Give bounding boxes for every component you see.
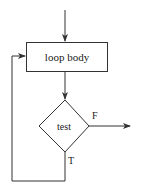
test-label: test xyxy=(57,121,71,132)
loop-body-label: loop body xyxy=(45,51,90,63)
test-node: test xyxy=(39,100,89,152)
flowchart: loop body test F T xyxy=(0,0,142,192)
loop-body-node: loop body xyxy=(27,43,108,72)
false-label: F xyxy=(92,110,98,121)
true-label: T xyxy=(68,155,74,166)
